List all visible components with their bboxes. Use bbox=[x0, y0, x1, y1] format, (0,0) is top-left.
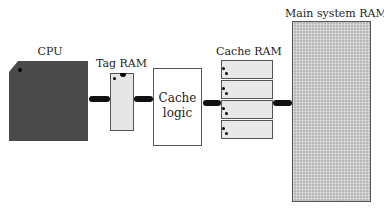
bus-connector bbox=[203, 100, 221, 106]
cache-ram-cell bbox=[221, 60, 273, 79]
bus-connector bbox=[89, 96, 110, 102]
pin1-dot-icon bbox=[222, 87, 225, 90]
cache-ram-cell bbox=[221, 80, 273, 99]
pin1-dot-icon bbox=[225, 92, 228, 95]
pin1-dot-icon bbox=[222, 107, 225, 110]
cache-ram-cell bbox=[221, 100, 273, 119]
main-system-ram-block bbox=[292, 21, 371, 202]
chip-notch-icon bbox=[120, 73, 126, 77]
pin1-dot-icon bbox=[113, 77, 116, 80]
bus-connector bbox=[134, 96, 153, 102]
pin1-dot-icon bbox=[225, 132, 228, 135]
pin1-dot-icon bbox=[225, 112, 228, 115]
cpu-block bbox=[9, 61, 88, 141]
main-ram-label: Main system RAM bbox=[285, 7, 377, 20]
bus-connector bbox=[273, 100, 292, 106]
tag-ram-label: Tag RAM bbox=[96, 57, 146, 70]
cache-logic-line2: logic bbox=[154, 106, 201, 120]
pin1-dot-icon bbox=[222, 127, 225, 130]
pin1-dot-icon bbox=[225, 72, 228, 75]
pin1-dot-icon bbox=[222, 67, 225, 70]
cache-logic-line1: Cache bbox=[154, 91, 201, 105]
cache-ram-cell bbox=[221, 120, 273, 139]
pin1-dot-icon bbox=[18, 68, 22, 72]
tag-ram-chip bbox=[110, 73, 134, 131]
cache-ram-label: Cache RAM bbox=[216, 45, 276, 58]
cache-logic-block: Cache logic bbox=[153, 68, 202, 146]
cpu-label: CPU bbox=[30, 45, 70, 58]
